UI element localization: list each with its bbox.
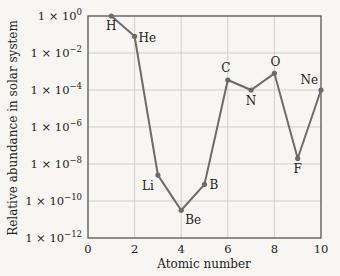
data-point-li — [155, 173, 160, 178]
point-label-he: He — [139, 31, 157, 45]
point-label-b: B — [210, 178, 219, 192]
x-tick-label: 10 — [314, 242, 329, 256]
abundance-chart: 1 × 1001 × 10−21 × 10−41 × 10−61 × 10−81… — [0, 0, 340, 276]
x-tick-label: 2 — [131, 242, 138, 256]
point-label-c: C — [221, 61, 230, 75]
x-tick-label: 0 — [84, 242, 91, 256]
x-tick-label: 6 — [224, 242, 231, 256]
point-label-li: Li — [142, 179, 154, 193]
data-point-be — [179, 208, 184, 213]
data-point-ne — [318, 87, 323, 92]
x-tick-label: 8 — [271, 242, 278, 256]
data-points: HHeLiBeBCNOFNe — [106, 13, 324, 227]
data-point-o — [272, 71, 277, 76]
point-label-o: O — [270, 55, 280, 69]
x-axis-ticks: 0246810 — [84, 242, 328, 256]
data-point-he — [132, 34, 137, 39]
y-tick-label: 1 × 10−4 — [31, 81, 82, 97]
y-tick-label: 1 × 10−10 — [25, 192, 82, 208]
y-tick-label: 1 × 10−6 — [31, 118, 82, 134]
x-tick-label: 4 — [178, 242, 185, 256]
y-tick-label: 1 × 10−12 — [25, 229, 82, 245]
point-label-h: H — [106, 19, 116, 33]
y-axis-ticks: 1 × 1001 × 10−21 × 10−41 × 10−61 × 10−81… — [25, 7, 82, 245]
data-point-h — [109, 13, 114, 18]
point-label-f: F — [294, 162, 302, 176]
data-point-c — [225, 77, 230, 82]
data-point-n — [249, 87, 254, 92]
y-tick-label: 1 × 10−2 — [31, 44, 82, 60]
point-label-ne: Ne — [300, 73, 318, 87]
grid — [88, 16, 321, 238]
x-axis-label: Atomic number — [156, 257, 251, 271]
y-tick-label: 1 × 10−8 — [31, 155, 82, 171]
data-point-b — [202, 182, 207, 187]
point-label-n: N — [246, 94, 257, 108]
y-tick-label: 1 × 100 — [38, 7, 82, 23]
y-axis-label: Relative abundance in solar system — [6, 20, 20, 236]
data-point-f — [295, 156, 300, 161]
point-label-be: Be — [185, 213, 201, 227]
